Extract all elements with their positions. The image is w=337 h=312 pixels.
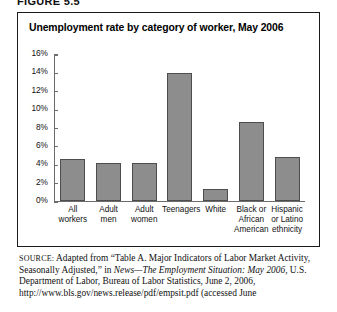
bar-slot: [162, 55, 198, 201]
plot-area: 0%2%4%6%8%10%12%14%16%: [54, 55, 305, 202]
y-tick-label: 8%: [36, 122, 48, 132]
y-tick-mark: [54, 201, 58, 202]
x-label-line: American: [234, 225, 270, 235]
x-label-line: workers: [55, 215, 91, 225]
x-axis-labels: AllworkersAdultmenAdultwomenTeenagersWhi…: [55, 205, 305, 236]
x-label-white: White: [198, 205, 234, 236]
bar-series: [55, 55, 305, 201]
x-label-line: Adult: [91, 205, 127, 215]
source-italic-2: May 2006: [247, 265, 285, 275]
x-label-adult-women: Adultwomen: [126, 205, 162, 236]
chart-frame: Unemployment rate by category of worker,…: [17, 12, 320, 247]
x-axis-line: [54, 201, 305, 202]
bar-slot: [126, 55, 162, 201]
bar-slot: [269, 55, 305, 201]
x-label-line: Teenagers: [162, 205, 198, 215]
chart-title: Unemployment rate by category of worker,…: [29, 22, 283, 33]
x-label-teenagers: Teenagers: [162, 205, 198, 236]
bar-adult-men: [96, 163, 121, 201]
y-tick-label: 10%: [31, 103, 48, 113]
x-label-line: Hispanic: [269, 205, 305, 215]
bar-white: [203, 189, 228, 201]
bar-slot: [55, 55, 91, 201]
bar-slot: [91, 55, 127, 201]
x-label-line: Black or: [234, 205, 270, 215]
bar-slot: [198, 55, 234, 201]
source-note: SOURCE: Adapted from “Table A. Major Ind…: [19, 253, 327, 312]
x-label-all-workers: Allworkers: [55, 205, 91, 236]
bar-all-workers: [60, 159, 85, 201]
x-label-hispanic-or-latino-ethnicity: Hispanicor Latinoethnicity: [269, 205, 305, 236]
y-tick-label: 2%: [36, 177, 48, 187]
x-label-black-or-african-american: Black orAfricanAmerican: [234, 205, 270, 236]
bar-teenagers: [167, 73, 192, 201]
x-label-line: White: [198, 205, 234, 215]
x-label-line: ethnicity: [269, 225, 305, 235]
y-tick-label: 16%: [31, 48, 48, 58]
x-label-adult-men: Adultmen: [91, 205, 127, 236]
bar-adult-women: [132, 163, 157, 200]
source-prefix: SOURCE:: [19, 254, 54, 263]
x-label-line: men: [91, 215, 127, 225]
y-tick-label: 0%: [36, 195, 48, 205]
y-tick-label: 14%: [31, 66, 48, 76]
y-tick-label: 12%: [31, 85, 48, 95]
figure-label: FIGURE 5.5: [17, 0, 80, 7]
bar-black-or-african-american: [239, 122, 264, 201]
bar-hispanic-or-latino-ethnicity: [275, 157, 300, 201]
x-label-line: women: [126, 215, 162, 225]
bar-slot: [234, 55, 270, 201]
x-label-line: Adult: [126, 205, 162, 215]
y-tick-label: 4%: [36, 158, 48, 168]
x-label-line: All: [55, 205, 91, 215]
x-label-line: African: [234, 215, 270, 225]
source-line1: Adapted from “Table A. Major Indicators …: [54, 253, 276, 263]
source-italic-1: News—The Employment Situation:: [114, 265, 245, 275]
x-label-line: or Latino: [269, 215, 305, 225]
y-tick-label: 6%: [36, 140, 48, 150]
